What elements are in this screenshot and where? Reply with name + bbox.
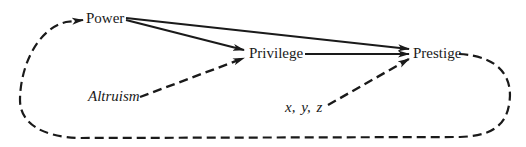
- causal-diagram: [0, 0, 526, 147]
- node-power: Power: [86, 11, 124, 26]
- node-privilege: Privilege: [249, 46, 303, 61]
- node-prestige: Prestige: [413, 46, 461, 61]
- node-xyz: x, y, z: [285, 100, 322, 115]
- edge-xyz-to-prestige: [328, 59, 409, 105]
- edge-prestige-to-power-loop: [20, 20, 510, 138]
- edge-altruism-to-privilege: [140, 58, 244, 97]
- node-altruism: Altruism: [88, 89, 140, 104]
